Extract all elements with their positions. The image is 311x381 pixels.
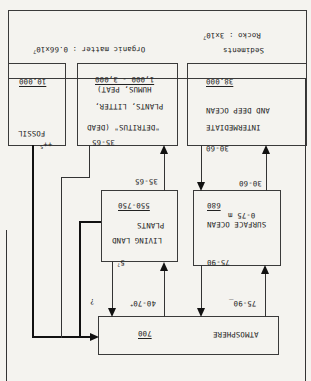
flux-surface-to-atmosphere: 75-90 [207,258,230,266]
organic-matter-value: Organic matter : 0.66x107 [33,45,145,56]
flux-atmosphere-to-surface: 75-90_ [229,299,256,307]
living-land-plants-value: 550-750 [118,201,150,209]
intermediate-ocean-line2: AND DEEP OCEAN [206,106,270,114]
flux-unknown: ? [90,297,95,305]
surface-to-atmosphere-line [201,265,202,308]
flux-atmosphere-to-plants: 40-70+ [130,299,156,310]
living-land-plants-line1: LIVING LAND [112,236,162,244]
atmosphere-to-surface-arrow-icon [261,265,269,274]
atmosphere-to-plants-arrow-icon [160,262,168,271]
atmosphere-to-surface-line [265,272,266,317]
atmosphere-label: ATMOSPHERE [213,330,259,338]
deep-to-surface-line [201,145,202,183]
fossil-to-atmosphere-arrow-icon [90,333,99,341]
flux-fossil-to-atmosphere: ++5 [40,140,52,151]
atmosphere-value: 700 [138,329,152,337]
surface-ocean-value: 680 [207,201,221,209]
detritus-out-vertical [89,145,90,178]
surface-ocean-line2: 0-75 m [228,211,255,219]
intermediate-ocean-box [187,63,307,146]
plants-to-atmosphere-line [112,261,113,308]
fossil-to-atmosphere-line [32,145,34,338]
deep-to-surface-arrow-icon [197,182,205,191]
detritus-line2: PLANTS, LITTER, [95,102,163,110]
plants-to-atmosphere-arrow-icon [108,308,116,317]
plants-to-detritus-line [164,150,165,191]
flux-surface-to-deep: 30-60 [239,179,262,187]
surface-to-deep-line [266,150,267,191]
living-land-plants-line2: PLANTS [137,221,164,229]
fossil-label: FOSSIL [18,129,45,137]
flux-plants-to-detritus: 35-65 [135,177,158,185]
flux-plants-to-atmosphere: 5? [117,258,125,269]
surface-ocean-line1: SURFACE OCEAN [207,220,266,228]
atmosphere-to-plants-line [164,270,165,317]
intermediate-ocean-line1: INTERMEDIATE [206,123,261,131]
rocks-value: Rocko : 3x107 [203,31,261,42]
plants-to-atmosphere-thick-horizontal [79,221,101,223]
surface-to-atmosphere-arrow-icon [197,308,205,317]
fossil-value: 10,000 [19,77,46,85]
detritus-line3: HUMUS, PEAT) [97,85,152,93]
detritus-line1: "DETRITUS" (DEAD [87,123,160,131]
outer-left-line [6,230,7,381]
detritus-value: 1,000 - 3,000 [95,75,154,83]
plants-to-detritus-arrow-icon [160,145,168,154]
flux-deep-to-surface: 30-60 [206,144,229,152]
surface-to-deep-arrow-icon [262,145,270,154]
plants-to-atmosphere-thick-line [79,221,81,338]
intermediate-ocean-value: 38,000 [206,77,233,85]
sediments-label: Sediments [223,46,264,54]
outer-right-line [305,78,306,381]
flux-detritus-out: 35-65 [92,138,115,146]
detritus-out-horizontal [61,177,90,178]
detritus-to-atmosphere-line [61,178,62,338]
